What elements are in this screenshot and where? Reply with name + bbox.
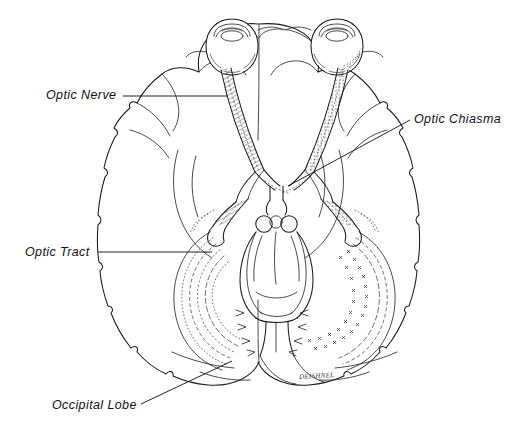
left-optic-tract [213, 199, 248, 226]
right-optic-nerve [305, 68, 348, 172]
occipital-lobes [172, 352, 397, 384]
diagram-canvas: .ln{fill:none;stroke:#1a1a1a;stroke-widt… [0, 0, 518, 441]
label-occipital-lobe: Occipital Lobe [52, 398, 137, 412]
label-optic-tract: Optic Tract [25, 245, 90, 259]
optic-chiasma [236, 170, 333, 202]
mammillary-bodies [256, 216, 297, 232]
lateral-geniculate [208, 224, 362, 246]
left-eyeball [186, 18, 283, 75]
cerebral-hemispheres [97, 24, 419, 386]
optic-radiations-right [289, 210, 395, 370]
optic-radiations-left [174, 210, 255, 370]
brainstem-midbrain [240, 186, 313, 356]
visual-pathway-illustration: .ln{fill:none;stroke:#1a1a1a;stroke-widt… [0, 0, 518, 441]
label-optic-nerve: Optic Nerve [46, 88, 116, 102]
leader-optic-chiasma [288, 120, 410, 186]
leader-lines [98, 96, 410, 404]
right-eyeball [286, 18, 383, 75]
right-optic-tract [321, 199, 356, 226]
left-optic-nerve [221, 68, 264, 172]
label-optic-chiasma: Optic Chiasma [414, 112, 501, 126]
